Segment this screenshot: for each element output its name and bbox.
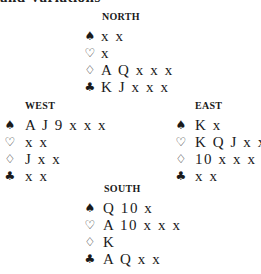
hand-south: SOUTH ♠ Q 10 x ♡ A 10 x x x ♢ K ♣ A Q x … xyxy=(84,183,141,268)
hand-label-east: EAST xyxy=(195,100,222,112)
suit-row-spades: ♠ A J 9 x x x xyxy=(4,117,55,134)
diamond-icon: ♢ xyxy=(84,62,96,79)
hand-label-north: NORTH xyxy=(102,11,140,23)
spade-icon: ♠ xyxy=(175,117,187,134)
cards-diamonds: 10 x x x xyxy=(195,151,257,168)
heart-icon: ♡ xyxy=(84,45,96,62)
suit-row-hearts: ♡ x x xyxy=(4,134,55,151)
cards-diamonds: J x x xyxy=(25,151,61,168)
cards-hearts: K Q J x x xyxy=(195,134,261,151)
heart-icon: ♡ xyxy=(175,134,187,151)
suit-row-diamonds: ♢ K xyxy=(84,234,141,251)
suit-row-hearts: ♡ K Q J x x xyxy=(175,134,222,151)
diamond-icon: ♢ xyxy=(4,151,16,168)
suit-row-hearts: ♡ A 10 x x x xyxy=(84,217,141,234)
cards-spades: Q 10 x xyxy=(103,200,153,217)
spade-icon: ♠ xyxy=(84,28,96,45)
club-icon: ♣ xyxy=(175,168,187,185)
suit-row-clubs: ♣ x x xyxy=(4,168,55,185)
cards-spades: A J 9 x x x xyxy=(25,117,107,134)
hand-east: EAST ♠ K x ♡ K Q J x x ♢ 10 x x x ♣ x x xyxy=(175,100,222,185)
suit-row-hearts: ♡ x xyxy=(84,45,140,62)
cards-diamonds: K xyxy=(103,234,115,251)
hand-north: NORTH ♠ x x ♡ x ♢ A Q x x x ♣ K J x x x xyxy=(84,11,140,96)
cards-hearts: x x xyxy=(25,134,49,151)
cards-clubs: x x xyxy=(195,168,219,185)
hand-label-west: WEST xyxy=(25,100,55,112)
diamond-icon: ♢ xyxy=(84,234,96,251)
cards-clubs: x x xyxy=(25,168,49,185)
cards-hearts: A 10 x x x xyxy=(103,217,182,234)
cards-spades: K x xyxy=(195,117,222,134)
heart-icon: ♡ xyxy=(4,134,16,151)
suit-row-clubs: ♣ A Q x x xyxy=(84,251,141,268)
cards-diamonds: A Q x x x xyxy=(101,62,174,79)
diamond-icon: ♢ xyxy=(175,151,187,168)
suit-row-spades: ♠ K x xyxy=(175,117,222,134)
spade-icon: ♠ xyxy=(4,117,16,134)
hand-west: WEST ♠ A J 9 x x x ♡ x x ♢ J x x ♣ x x xyxy=(4,100,55,185)
suit-row-diamonds: ♢ J x x xyxy=(4,151,55,168)
club-icon: ♣ xyxy=(84,251,96,268)
heart-icon: ♡ xyxy=(84,217,96,234)
cards-clubs: A Q x x xyxy=(103,251,161,268)
cropped-heading: and Variations xyxy=(0,0,101,6)
cards-clubs: K J x x x xyxy=(101,79,170,96)
club-icon: ♣ xyxy=(84,79,96,96)
hand-label-south: SOUTH xyxy=(104,183,141,195)
spade-icon: ♠ xyxy=(84,200,96,217)
suit-row-diamonds: ♢ A Q x x x xyxy=(84,62,140,79)
suit-row-diamonds: ♢ 10 x x x xyxy=(175,151,222,168)
suit-row-clubs: ♣ x x xyxy=(175,168,222,185)
suit-row-clubs: ♣ K J x x x xyxy=(84,79,140,96)
suit-row-spades: ♠ x x xyxy=(84,28,140,45)
cards-hearts: x xyxy=(101,45,110,62)
cards-spades: x x xyxy=(101,28,125,45)
suit-row-spades: ♠ Q 10 x xyxy=(84,200,141,217)
club-icon: ♣ xyxy=(4,168,16,185)
